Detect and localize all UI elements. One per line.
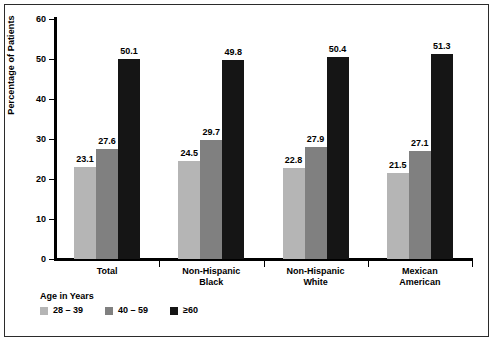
- x-axis-category-label: Non-HispanicWhite: [261, 266, 371, 288]
- legend-item-label: ≥60: [183, 306, 198, 315]
- legend-item: ≥60: [170, 306, 198, 315]
- chart-figure: Percentage of Patients 0102030405060 23.…: [0, 0, 493, 341]
- bar: 50.1: [118, 59, 140, 259]
- bar: 50.4: [327, 57, 349, 259]
- legend: Age in Years 28 – 3940 – 59≥60: [40, 292, 220, 315]
- bar-value-label: 22.8: [284, 156, 304, 165]
- bar-value-label: 27.9: [306, 135, 326, 144]
- x-axis-category-label-line: White: [261, 277, 371, 288]
- bar: 21.5: [387, 173, 409, 259]
- plot-area: 0102030405060 23.124.522.821.527.629.727…: [55, 19, 472, 259]
- bar: 49.8: [222, 60, 244, 259]
- bar-value-label: 21.5: [388, 161, 408, 170]
- y-tick-label: 60: [36, 15, 46, 24]
- y-axis-title-container: Percentage of Patients: [14, 60, 28, 220]
- x-axis-category-label-line: American: [365, 277, 475, 288]
- legend-item-label: 40 – 59: [118, 306, 148, 315]
- legend-item: 40 – 59: [105, 306, 148, 315]
- y-tick-mark: [49, 259, 55, 260]
- bar-value-label: 27.1: [410, 139, 430, 148]
- y-tick-mark: [49, 139, 55, 140]
- legend-item: 28 – 39: [40, 306, 83, 315]
- x-axis-category-label-line: Non-Hispanic: [261, 266, 371, 277]
- y-tick-label: 50: [36, 55, 46, 64]
- bar: 27.9: [305, 147, 327, 259]
- x-axis-category-label-line: Black: [156, 277, 266, 288]
- y-axis-title: Percentage of Patients: [6, 0, 16, 130]
- x-axis-category-label: Total: [52, 266, 162, 277]
- legend-swatch-icon: [105, 307, 113, 315]
- x-axis-category-label-line: Total: [52, 266, 162, 277]
- legend-swatch-icon: [40, 307, 48, 315]
- legend-items: 28 – 3940 – 59≥60: [40, 306, 220, 315]
- y-tick-label: 30: [36, 135, 46, 144]
- y-tick-label: 40: [36, 95, 46, 104]
- bar: 24.5: [178, 161, 200, 259]
- y-tick-mark: [49, 19, 55, 20]
- legend-title: Age in Years: [40, 292, 220, 301]
- y-tick-mark: [49, 179, 55, 180]
- legend-item-label: 28 – 39: [53, 306, 83, 315]
- x-axis-category-label-line: Non-Hispanic: [156, 266, 266, 277]
- bar-value-label: 24.5: [180, 149, 200, 158]
- y-tick-label: 20: [36, 175, 46, 184]
- y-tick-mark: [49, 219, 55, 220]
- x-axis-category-label-line: Mexican: [365, 266, 475, 277]
- bar-value-label: 23.1: [75, 155, 95, 164]
- bar: 51.3: [431, 54, 453, 259]
- y-tick-label: 0: [41, 255, 46, 264]
- y-tick-label: 10: [36, 215, 46, 224]
- bar: 29.7: [200, 140, 222, 259]
- bar-value-label: 50.1: [119, 47, 139, 56]
- y-tick-mark: [49, 99, 55, 100]
- bar-value-label: 51.3: [432, 42, 452, 51]
- bar-value-label: 27.6: [97, 137, 117, 146]
- bar-value-label: 49.8: [224, 48, 244, 57]
- bar-value-label: 29.7: [202, 128, 222, 137]
- x-axis-category-label: Non-HispanicBlack: [156, 266, 266, 288]
- bar-value-label: 50.4: [328, 45, 348, 54]
- x-axis-category-label: MexicanAmerican: [365, 266, 475, 288]
- bar: 22.8: [283, 168, 305, 259]
- bar: 27.1: [409, 151, 431, 259]
- legend-swatch-icon: [170, 307, 178, 315]
- y-tick-mark: [49, 59, 55, 60]
- bar: 27.6: [96, 149, 118, 259]
- bar: 23.1: [74, 167, 96, 259]
